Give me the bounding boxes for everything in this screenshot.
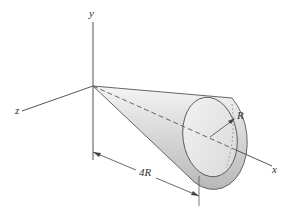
z-axis [22,86,93,111]
radius-label: R [237,110,244,121]
cone-diagram [0,0,294,215]
z-axis-label: z [15,105,19,116]
dimension-arrowhead-left [93,152,101,157]
length-label: 4R [139,167,151,178]
x-axis-label: x [272,164,277,175]
dimension-arrowhead-right [191,191,199,196]
y-axis-label: y [89,8,94,19]
